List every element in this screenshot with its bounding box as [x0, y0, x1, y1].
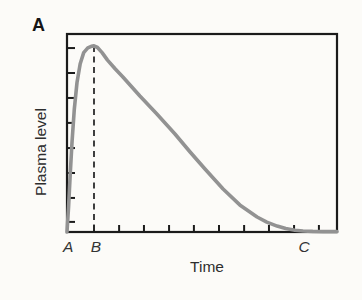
- axis-marker-label-b: B: [91, 238, 101, 256]
- panel-label: A: [32, 15, 45, 36]
- axis-marker-label-c: C: [298, 238, 309, 256]
- x-axis-title: Time: [190, 258, 224, 276]
- axis-marker-label-a: A: [63, 238, 73, 256]
- plasma-curve: [67, 46, 337, 232]
- figure-panel: A Plasma level Time ABC: [0, 0, 362, 300]
- y-axis-title: Plasma level: [32, 108, 50, 196]
- plot-frame: [67, 34, 337, 232]
